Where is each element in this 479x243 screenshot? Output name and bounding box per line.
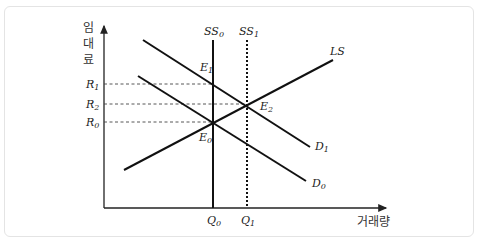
y-axis-label-2: 대 bbox=[83, 37, 94, 51]
supply-demand-diagram: 임 대 료 거래량 SS0 SS1 LS D1 D0 E1 E2 E0 R1 R… bbox=[0, 0, 479, 243]
r2-label: R2 bbox=[85, 98, 99, 112]
ss0-label: SS0 bbox=[204, 25, 224, 39]
e2-label: E2 bbox=[259, 100, 273, 114]
e1-label: E1 bbox=[199, 61, 213, 75]
q0-label: Q0 bbox=[207, 214, 221, 228]
r1-label: R1 bbox=[85, 78, 99, 92]
y-axis-label-3: 료 bbox=[83, 53, 94, 67]
ls-label: LS bbox=[329, 45, 345, 58]
y-axis-label-1: 임 bbox=[83, 21, 94, 35]
d0-label: D0 bbox=[311, 177, 326, 191]
e0-label: E0 bbox=[198, 131, 212, 145]
q1-label: Q1 bbox=[241, 214, 255, 228]
ls-curve bbox=[124, 60, 333, 170]
ss1-label: SS1 bbox=[239, 25, 259, 39]
x-axis-label: 거래량 bbox=[357, 215, 390, 229]
d1-label: D1 bbox=[314, 140, 329, 154]
r0-label: R0 bbox=[85, 116, 99, 130]
